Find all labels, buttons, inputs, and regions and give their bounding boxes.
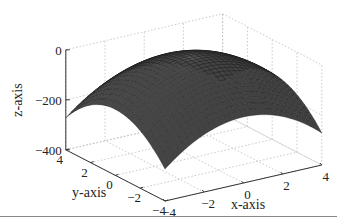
- z-axis-label: z-axis: [10, 83, 25, 116]
- surface-mesh: [66, 50, 322, 169]
- svg-text:0: 0: [106, 177, 113, 192]
- svg-text:−200: −200: [35, 93, 62, 108]
- svg-text:2: 2: [81, 165, 88, 180]
- bottom-divider: [0, 216, 337, 217]
- svg-text:0: 0: [55, 43, 62, 58]
- svg-text:−2: −2: [201, 196, 215, 211]
- x-axis-label: x-axis: [231, 197, 265, 212]
- y-axis-label: y-axis: [72, 185, 106, 200]
- svg-text:−4: −4: [162, 205, 176, 220]
- surface-plot: −400−2000−4−2024−4−2024 z-axis y-axis x-…: [0, 0, 337, 222]
- svg-text:4: 4: [57, 152, 64, 167]
- svg-text:2: 2: [283, 178, 290, 193]
- svg-text:4: 4: [323, 169, 330, 184]
- svg-text:−2: −2: [127, 190, 141, 205]
